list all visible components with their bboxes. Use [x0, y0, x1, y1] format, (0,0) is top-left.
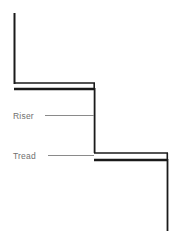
tread-label: Tread — [13, 151, 36, 161]
stair-section-drawing: Riser Tread — [0, 0, 191, 243]
riser-label: Riser — [13, 111, 34, 121]
stair-section-diagram: Riser Tread — [0, 0, 191, 243]
